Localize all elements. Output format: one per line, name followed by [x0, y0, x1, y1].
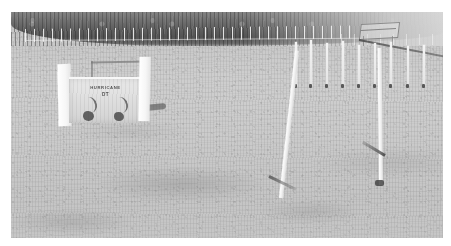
weave-pole [358, 45, 360, 86]
weave-pole [326, 43, 328, 86]
weave-pole-base [422, 84, 425, 88]
jump-wing-upright [91, 61, 93, 78]
photograph: HURRICANE DT [11, 12, 443, 238]
hurricane-sign-jump: HURRICANE DT [47, 52, 159, 130]
weave-pole [423, 45, 425, 86]
weave-pole [374, 43, 376, 86]
sign-blob-left [83, 111, 94, 121]
weave-pole-base [357, 84, 360, 88]
sign-panel: HURRICANE DT [69, 77, 142, 123]
screenshot-root: HURRICANE DT [0, 0, 451, 246]
weave-pole [342, 41, 344, 86]
weave-pole-base [309, 84, 312, 88]
weave-pole-base [325, 84, 328, 88]
weave-pole [407, 46, 409, 86]
sign-blob-right [114, 112, 124, 121]
upright-pole-base [375, 180, 384, 186]
sign-title-text: HURRICANE [69, 85, 142, 90]
weave-pole [310, 40, 312, 86]
sign-post-right [139, 57, 151, 121]
weave-pole-base [406, 84, 409, 88]
sign-subtitle-text: DT [69, 92, 142, 97]
weave-pole [390, 42, 392, 86]
weave-pole-base [341, 84, 344, 88]
weave-pole-base [389, 84, 392, 88]
weave-pole-base [373, 84, 376, 88]
